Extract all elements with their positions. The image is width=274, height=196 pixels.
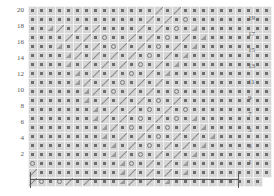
stitch-cell[interactable]	[119, 124, 128, 133]
stitch-cell[interactable]	[83, 52, 92, 61]
stitch-cell[interactable]	[209, 88, 218, 97]
stitch-cell[interactable]	[227, 97, 236, 106]
stitch-cell[interactable]	[83, 88, 92, 97]
stitch-cell[interactable]	[128, 79, 137, 88]
stitch-cell[interactable]	[155, 25, 164, 34]
stitch-cell[interactable]	[173, 61, 182, 70]
stitch-cell[interactable]	[56, 61, 65, 70]
stitch-cell[interactable]	[92, 52, 101, 61]
stitch-cell[interactable]	[146, 25, 155, 34]
stitch-cell[interactable]	[236, 106, 245, 115]
stitch-cell[interactable]	[29, 133, 38, 142]
stitch-cell[interactable]	[74, 52, 83, 61]
stitch-cell[interactable]	[119, 160, 128, 169]
stitch-cell[interactable]	[29, 88, 38, 97]
stitch-cell[interactable]	[245, 178, 254, 187]
stitch-cell[interactable]	[182, 124, 191, 133]
stitch-cell[interactable]	[128, 70, 137, 79]
stitch-cell[interactable]	[65, 106, 74, 115]
stitch-cell[interactable]	[65, 88, 74, 97]
stitch-cell[interactable]	[92, 16, 101, 25]
stitch-cell[interactable]	[137, 133, 146, 142]
stitch-cell[interactable]	[146, 133, 155, 142]
stitch-cell[interactable]	[200, 52, 209, 61]
stitch-cell[interactable]	[83, 61, 92, 70]
stitch-cell[interactable]	[92, 25, 101, 34]
stitch-cell[interactable]	[92, 115, 101, 124]
stitch-cell[interactable]	[110, 142, 119, 151]
stitch-cell[interactable]	[47, 133, 56, 142]
stitch-cell[interactable]	[173, 16, 182, 25]
stitch-cell[interactable]	[164, 61, 173, 70]
stitch-cell[interactable]	[182, 79, 191, 88]
stitch-cell[interactable]	[65, 133, 74, 142]
stitch-cell[interactable]	[83, 25, 92, 34]
stitch-cell[interactable]	[101, 88, 110, 97]
stitch-cell[interactable]	[164, 160, 173, 169]
stitch-cell[interactable]	[101, 70, 110, 79]
stitch-cell[interactable]	[128, 61, 137, 70]
stitch-cell[interactable]	[128, 115, 137, 124]
stitch-cell[interactable]	[137, 52, 146, 61]
stitch-cell[interactable]	[227, 79, 236, 88]
stitch-cell[interactable]	[200, 97, 209, 106]
stitch-cell[interactable]	[173, 124, 182, 133]
stitch-cell[interactable]	[182, 160, 191, 169]
stitch-cell[interactable]	[38, 97, 47, 106]
stitch-cell[interactable]	[236, 133, 245, 142]
stitch-cell[interactable]	[47, 16, 56, 25]
stitch-cell[interactable]	[173, 79, 182, 88]
stitch-cell[interactable]	[29, 25, 38, 34]
stitch-cell[interactable]	[182, 88, 191, 97]
stitch-cell[interactable]	[128, 142, 137, 151]
stitch-cell[interactable]	[146, 34, 155, 43]
stitch-cell[interactable]	[65, 34, 74, 43]
stitch-cell[interactable]	[191, 34, 200, 43]
stitch-cell[interactable]	[56, 88, 65, 97]
stitch-cell[interactable]	[38, 16, 47, 25]
stitch-cell[interactable]	[83, 79, 92, 88]
stitch-cell[interactable]	[173, 160, 182, 169]
stitch-cell[interactable]	[164, 52, 173, 61]
stitch-cell[interactable]	[236, 151, 245, 160]
stitch-cell[interactable]	[65, 79, 74, 88]
stitch-cell[interactable]	[65, 124, 74, 133]
stitch-cell[interactable]	[47, 34, 56, 43]
stitch-cell[interactable]	[101, 43, 110, 52]
stitch-cell[interactable]	[200, 88, 209, 97]
stitch-cell[interactable]	[191, 61, 200, 70]
stitch-cell[interactable]	[155, 70, 164, 79]
stitch-cell[interactable]	[119, 97, 128, 106]
stitch-cell[interactable]	[200, 79, 209, 88]
stitch-cell[interactable]	[29, 16, 38, 25]
stitch-cell[interactable]	[83, 142, 92, 151]
stitch-cell[interactable]	[236, 79, 245, 88]
stitch-cell[interactable]	[38, 88, 47, 97]
stitch-cell[interactable]	[83, 115, 92, 124]
stitch-cell[interactable]	[137, 160, 146, 169]
stitch-cell[interactable]	[47, 97, 56, 106]
stitch-cell[interactable]	[119, 25, 128, 34]
stitch-cell[interactable]	[191, 43, 200, 52]
stitch-cell[interactable]	[173, 133, 182, 142]
stitch-cell[interactable]	[56, 106, 65, 115]
stitch-cell[interactable]	[164, 142, 173, 151]
stitch-cell[interactable]	[164, 7, 173, 16]
stitch-cell[interactable]	[38, 70, 47, 79]
stitch-cell[interactable]	[119, 52, 128, 61]
stitch-cell[interactable]	[191, 25, 200, 34]
stitch-cell[interactable]	[110, 160, 119, 169]
stitch-cell[interactable]	[92, 160, 101, 169]
stitch-cell[interactable]	[146, 61, 155, 70]
stitch-cell[interactable]	[173, 88, 182, 97]
stitch-cell[interactable]	[254, 169, 263, 178]
stitch-cell[interactable]	[110, 97, 119, 106]
stitch-cell[interactable]	[164, 16, 173, 25]
stitch-cell[interactable]	[173, 115, 182, 124]
stitch-cell[interactable]	[74, 79, 83, 88]
stitch-cell[interactable]	[191, 97, 200, 106]
stitch-cell[interactable]	[47, 79, 56, 88]
stitch-cell[interactable]	[155, 133, 164, 142]
stitch-cell[interactable]	[47, 52, 56, 61]
stitch-cell[interactable]	[83, 34, 92, 43]
